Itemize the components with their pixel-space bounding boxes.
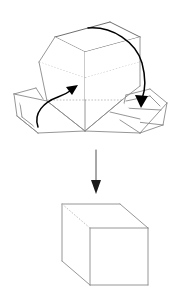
figure-root: Box folding instruction diagram Line dra… — [0, 0, 181, 292]
downward-transition-arrow — [91, 150, 101, 194]
unfolded-box — [14, 22, 168, 133]
box-folding-diagram: Box folding instruction diagram Line dra… — [0, 0, 181, 292]
assembled-cube — [62, 204, 148, 285]
